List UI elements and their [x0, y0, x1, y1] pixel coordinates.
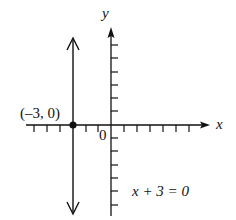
point-label: (–3, 0) — [20, 106, 60, 121]
equation-label: x + 3 = 0 — [132, 184, 189, 199]
point-minus-3-0 — [69, 121, 76, 128]
x-axis-label: x — [216, 117, 223, 132]
origin-label: 0 — [99, 128, 107, 143]
y-axis-label: y — [102, 6, 109, 21]
graph-figure: y x 0 (–3, 0) x + 3 = 0 — [0, 0, 236, 220]
